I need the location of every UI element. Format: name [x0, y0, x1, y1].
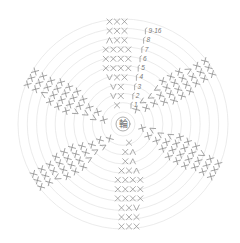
inc-stitch-icon [72, 109, 79, 116]
sc-stitch-icon [54, 85, 61, 92]
inc-stitch-icon [100, 143, 107, 150]
sc-stitch-icon [185, 156, 192, 163]
round-label: 6 [143, 55, 147, 62]
sc-stitch-icon [123, 177, 128, 182]
sc-stitch-icon [122, 28, 127, 33]
inc-stitch-icon [130, 159, 135, 164]
round-label: 1 [134, 101, 138, 108]
sc-stitch-icon [199, 168, 206, 175]
round-start-arrow-icon [133, 93, 135, 99]
sc-stitch-icon [123, 149, 128, 154]
round-label: 7 [145, 46, 149, 53]
sc-stitch-icon [119, 215, 124, 220]
sc-stitch-icon [56, 160, 63, 167]
sc-stitch-icon [123, 159, 128, 164]
sc-stitch-icon [122, 19, 127, 24]
round-label: 9-16 [148, 27, 161, 34]
sc-stitch-icon [191, 164, 198, 171]
sc-stitch-icon [62, 90, 69, 97]
sc-stitch-icon [126, 168, 131, 173]
sc-stitch-icon [115, 187, 120, 192]
inc-stitch-icon [149, 126, 156, 133]
magic-ring-icon: 輪 [119, 118, 128, 129]
sc-stitch-icon [64, 155, 71, 162]
sc-stitch-icon [114, 38, 119, 43]
inc-stitch-icon [153, 85, 160, 92]
sc-stitch-icon [176, 133, 183, 140]
inc-stitch-icon [139, 98, 146, 105]
sc-stitch-icon [46, 161, 53, 168]
sc-stitch-icon [114, 19, 119, 24]
sc-stitch-icon [96, 136, 103, 143]
sc-stitch-icon [126, 47, 131, 52]
sc-stitch-icon [119, 224, 124, 229]
chart-canvas: 輪123456789-16 [0, 0, 240, 243]
sc-stitch-icon [119, 168, 124, 173]
sc-stitch-icon [118, 56, 123, 61]
inc-stitch-icon [90, 115, 97, 122]
sc-stitch-icon [114, 75, 119, 80]
sc-stitch-icon [126, 224, 131, 229]
sc-stitch-icon [126, 56, 131, 61]
sc-stitch-icon [118, 93, 123, 98]
sc-stitch-icon [80, 96, 87, 103]
sc-stitch-icon [115, 196, 120, 201]
round-label: 4 [139, 73, 143, 80]
sc-stitch-icon [100, 116, 107, 123]
inc-stitch-icon [147, 93, 154, 100]
sc-stitch-icon [32, 68, 39, 75]
sc-stitch-icon [175, 68, 182, 75]
sc-stitch-icon [126, 66, 131, 71]
sc-stitch-icon [118, 84, 123, 89]
sc-stitch-icon [88, 141, 95, 148]
sc-stitch-icon [119, 205, 124, 210]
round-label: 2 [135, 92, 140, 99]
sc-stitch-icon [38, 166, 45, 173]
sc-stitch-icon [126, 215, 131, 220]
sc-stitch-icon [123, 187, 128, 192]
round-start-arrow-icon [131, 102, 133, 108]
sc-stitch-icon [114, 28, 119, 33]
sc-stitch-icon [159, 145, 166, 152]
sc-stitch-icon [122, 75, 127, 80]
round-label: 8 [147, 36, 151, 43]
crochet-chart: 輪123456789-16 輪 [0, 0, 240, 243]
sc-stitch-icon [126, 205, 131, 210]
sc-stitch-icon [209, 71, 216, 78]
sc-stitch-icon [175, 86, 182, 93]
sc-stitch-icon [122, 38, 127, 43]
sc-stitch-icon [40, 73, 47, 80]
sc-stitch-icon [123, 196, 128, 201]
sc-stitch-icon [48, 77, 55, 84]
sc-stitch-icon [103, 66, 108, 71]
sc-stitch-icon [143, 105, 150, 112]
sc-stitch-icon [201, 75, 208, 82]
sc-stitch-icon [62, 107, 69, 114]
sc-stitch-icon [64, 173, 71, 180]
sc-stitch-icon [167, 91, 174, 98]
inc-stitch-icon [167, 132, 174, 139]
inc-stitch-icon [92, 148, 99, 155]
sc-stitch-icon [177, 151, 184, 158]
sc-stitch-icon [205, 64, 212, 71]
sc-stitch-icon [118, 66, 123, 71]
round-label: 3 [138, 83, 142, 90]
sc-stitch-icon [207, 173, 214, 180]
inc-stitch-icon [157, 131, 164, 138]
round-start-arrow-icon [135, 84, 137, 90]
sc-stitch-icon [183, 81, 190, 88]
inc-stitch-icon [82, 110, 89, 117]
sc-stitch-icon [72, 150, 79, 157]
inc-stitch-icon [86, 155, 93, 162]
sc-stitch-icon [138, 177, 143, 182]
sc-stitch-icon [118, 47, 123, 52]
sc-stitch-icon [30, 170, 37, 177]
sc-stitch-icon [193, 80, 200, 87]
sc-stitch-icon [115, 177, 120, 182]
round-label: 5 [141, 64, 145, 71]
sc-stitch-icon [151, 100, 158, 107]
sc-stitch-icon [34, 177, 41, 184]
sc-stitch-icon [139, 125, 146, 132]
